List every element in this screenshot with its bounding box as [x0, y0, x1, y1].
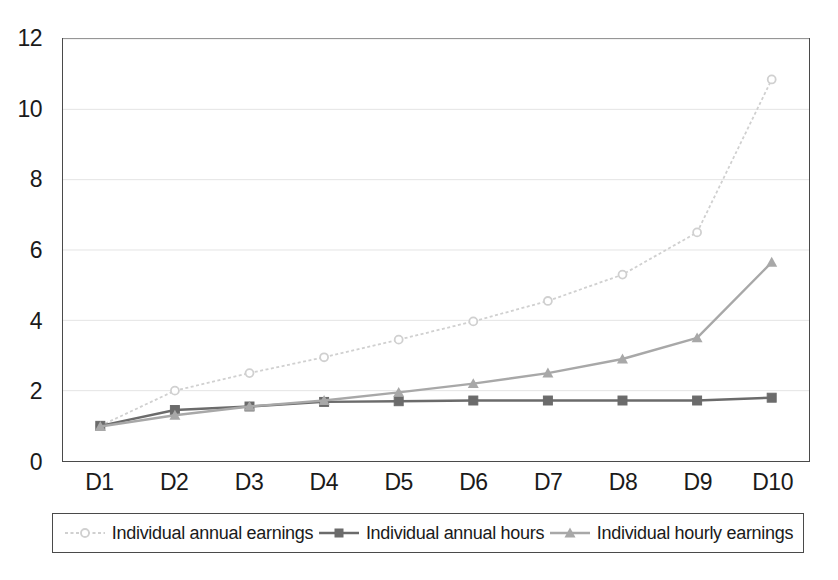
- data-point-circle: [246, 369, 254, 377]
- data-point-circle: [768, 75, 776, 83]
- plot-area: [62, 38, 810, 462]
- data-point-square: [767, 393, 776, 402]
- x-tick-label: D1: [85, 470, 113, 495]
- legend-marker-triangle-icon: [548, 526, 592, 540]
- chart-legend: Individual annual earningsIndividual ann…: [52, 513, 804, 553]
- legend-label: Individual annual earnings: [112, 524, 313, 542]
- series-line: [100, 79, 771, 425]
- data-point-circle: [320, 353, 328, 361]
- x-tick-label: D7: [534, 470, 562, 495]
- legend-marker-circle-icon: [63, 526, 107, 540]
- y-tick-label: 4: [30, 309, 42, 332]
- data-point-circle: [544, 297, 552, 305]
- line-chart: 024681012 D1D2D3D4D5D6D7D8D9D10 Individu…: [0, 0, 838, 580]
- legend-marker-square-icon: [317, 526, 361, 540]
- data-point-square: [543, 396, 552, 405]
- data-point-circle: [693, 228, 701, 236]
- data-point-square: [618, 396, 627, 405]
- data-point-circle: [469, 317, 477, 325]
- y-tick-label: 6: [30, 239, 42, 262]
- series-1: [96, 75, 775, 429]
- legend-item-1[interactable]: Individual annual earnings: [63, 524, 313, 542]
- y-tick-label: 10: [17, 97, 42, 120]
- data-point-square: [469, 396, 478, 405]
- y-axis: 024681012: [0, 38, 52, 462]
- data-point-square: [394, 397, 403, 406]
- legend-label: Individual annual hours: [366, 524, 544, 542]
- x-tick-label: D2: [160, 470, 188, 495]
- x-tick-label: D4: [310, 470, 338, 495]
- series-layer: [63, 39, 809, 461]
- data-point-circle: [171, 387, 179, 395]
- series-3: [95, 257, 777, 431]
- legend-item-3[interactable]: Individual hourly earnings: [548, 524, 793, 542]
- x-tick-label: D10: [752, 470, 793, 495]
- x-tick-label: D8: [609, 470, 637, 495]
- data-point-triangle: [766, 257, 777, 267]
- y-tick-label: 8: [30, 168, 42, 191]
- y-tick-label: 0: [30, 451, 42, 474]
- x-tick-label: D6: [459, 470, 487, 495]
- y-tick-label: 2: [30, 380, 42, 403]
- x-tick-label: D5: [384, 470, 412, 495]
- x-tick-label: D3: [235, 470, 263, 495]
- data-point-circle: [395, 336, 403, 344]
- legend-label: Individual hourly earnings: [597, 524, 793, 542]
- page-edge-artifact: [0, 566, 838, 580]
- y-tick-label: 12: [17, 27, 42, 50]
- data-point-circle: [619, 271, 627, 279]
- legend-item-2[interactable]: Individual annual hours: [317, 524, 544, 542]
- x-tick-label: D9: [684, 470, 712, 495]
- x-axis: D1D2D3D4D5D6D7D8D9D10: [62, 470, 810, 504]
- data-point-square: [693, 396, 702, 405]
